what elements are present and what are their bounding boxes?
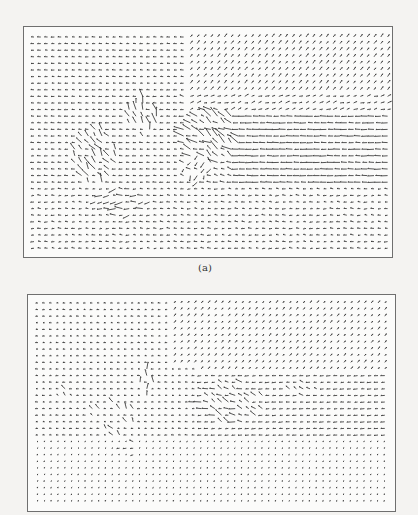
optical-flow-field-a	[24, 27, 394, 259]
panel-caption-a: (a)	[198, 262, 212, 273]
optical-flow-field-b	[28, 295, 397, 513]
vector-field-panel-a	[23, 26, 393, 258]
vector-field-panel-b	[27, 294, 396, 512]
